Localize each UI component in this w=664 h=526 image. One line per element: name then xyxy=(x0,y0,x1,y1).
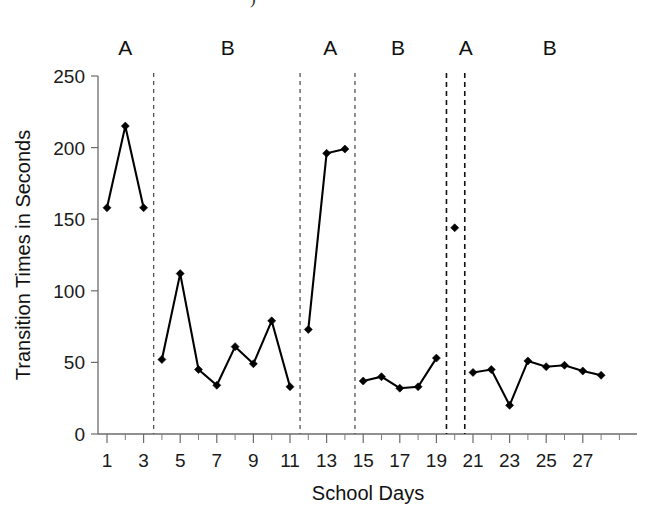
data-point-marker xyxy=(506,401,514,409)
data-point-marker xyxy=(469,368,477,376)
data-point-marker xyxy=(268,317,276,325)
data-point-marker xyxy=(579,367,587,375)
y-axis-title: Transition Times in Seconds xyxy=(12,130,34,380)
y-axis-group: 050100150200250 xyxy=(53,66,98,445)
x-axis-tick-label: 23 xyxy=(499,450,520,471)
data-point-marker xyxy=(341,145,349,153)
series-segment xyxy=(107,126,144,208)
data-point-marker xyxy=(103,204,111,212)
data-point-marker xyxy=(304,325,312,333)
x-axis-tick-label: 7 xyxy=(212,450,223,471)
phase-label-a: A xyxy=(118,36,132,59)
data-point-marker xyxy=(140,204,148,212)
x-axis-tick-label: 21 xyxy=(462,450,483,471)
data-point-marker xyxy=(158,356,166,364)
data-point-marker xyxy=(121,122,129,130)
data-point-marker xyxy=(542,363,550,371)
x-axis-group: 13579111315171921232527 xyxy=(98,434,637,471)
y-axis-tick-label: 50 xyxy=(64,352,85,373)
x-axis-tick-label: 27 xyxy=(572,450,593,471)
x-axis-tick-label: 17 xyxy=(389,450,410,471)
phase-label-b: B xyxy=(221,36,235,59)
phase-label-a: A xyxy=(323,36,337,59)
data-point-marker xyxy=(176,270,184,278)
data-point-marker xyxy=(451,224,459,232)
chart-figure: ) 050100150200250 1357911131517192123252… xyxy=(0,0,664,526)
phase-label-b: B xyxy=(543,36,557,59)
line-chart-svg: 050100150200250 13579111315171921232527 … xyxy=(0,0,664,526)
series-segment xyxy=(162,274,290,387)
x-axis-tick-label: 3 xyxy=(138,450,149,471)
x-axis-tick-label: 11 xyxy=(280,450,300,471)
y-axis-tick-label: 150 xyxy=(53,209,85,230)
x-axis-title: School Days xyxy=(312,482,424,504)
y-axis-tick-label: 200 xyxy=(53,138,85,159)
x-axis-tick-label: 19 xyxy=(426,450,447,471)
phase-dividers-group xyxy=(154,73,465,434)
data-point-marker xyxy=(597,371,605,379)
x-axis-tick-label: 9 xyxy=(248,450,259,471)
phase-labels-group: ABABAB xyxy=(118,36,557,59)
x-axis-tick-label: 25 xyxy=(536,450,557,471)
series-segment xyxy=(363,358,436,388)
data-series-group xyxy=(103,122,605,409)
y-axis-tick-label: 0 xyxy=(74,424,85,445)
data-point-marker xyxy=(323,149,331,157)
data-point-marker xyxy=(524,357,532,365)
series-segment xyxy=(308,149,345,329)
data-point-marker xyxy=(487,366,495,374)
y-axis-tick-label: 100 xyxy=(53,281,85,302)
y-axis-tick-label: 250 xyxy=(53,66,85,87)
x-axis-tick-label: 1 xyxy=(102,450,113,471)
x-axis-tick-label: 5 xyxy=(175,450,186,471)
data-point-marker xyxy=(286,383,294,391)
x-axis-tick-label: 15 xyxy=(353,450,374,471)
phase-label-b: B xyxy=(391,36,405,59)
data-point-marker xyxy=(561,361,569,369)
x-axis-tick-label: 13 xyxy=(316,450,337,471)
phase-label-a: A xyxy=(459,36,473,59)
data-point-marker xyxy=(359,377,367,385)
